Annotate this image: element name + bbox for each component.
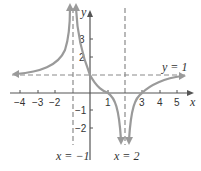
arrow-down-left-icon	[117, 137, 125, 145]
arrow-left-icon	[12, 70, 19, 78]
graph: −4 −3 −2 1 3 4 5 x 3 2 −1 −2 y y = 1 x =…	[0, 0, 201, 171]
horizontal-asymptote-label: y = 1	[161, 60, 187, 74]
x-tick-label: −4	[14, 97, 26, 108]
left-branch	[16, 8, 70, 74]
vertical-asymptote-left-label: x = −1	[55, 149, 90, 163]
middle-branch	[76, 8, 121, 140]
x-tick-label: 5	[174, 97, 180, 108]
right-branch	[129, 76, 182, 140]
y-tick-label: −2	[75, 123, 87, 134]
x-tick-label: −2	[49, 97, 61, 108]
function-curve	[16, 8, 182, 140]
curve-arrowheads	[12, 3, 186, 145]
vertical-asymptote-right-label: x = 2	[113, 149, 139, 163]
y-axis-label: y	[80, 5, 87, 19]
x-tick-label: 4	[157, 97, 163, 108]
x-tick-label: 1	[105, 97, 111, 108]
x-axis-label: x	[189, 95, 196, 109]
x-tick-label: −3	[32, 97, 44, 108]
x-tick-label: 3	[139, 97, 145, 108]
y-axis-arrow-icon	[87, 10, 93, 17]
arrow-down-right-icon	[125, 137, 133, 145]
arrow-up-right-icon	[72, 3, 80, 11]
y-tick-label: −1	[75, 105, 87, 116]
